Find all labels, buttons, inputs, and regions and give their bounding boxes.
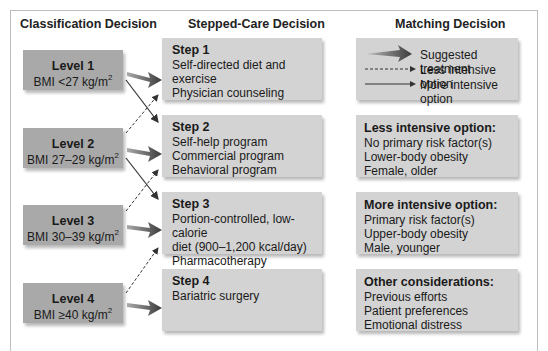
less-intensive-box: Less intensive option: No primary risk f… — [356, 115, 518, 177]
level-2-bmi: BMI 27–29 kg/m2 — [23, 153, 123, 167]
level-3-title: Level 3 — [23, 214, 123, 228]
step-1-title: Step 1 — [172, 43, 312, 57]
step-3-title: Step 3 — [172, 197, 312, 211]
level-1-bmi: BMI <27 kg/m2 — [23, 75, 123, 89]
less-intensive-line: Female, older — [364, 164, 510, 178]
step-1-line: Physician counseling — [172, 86, 312, 100]
step-4-title: Step 4 — [172, 274, 312, 288]
other-considerations-line: Emotional distress — [364, 318, 510, 332]
suggested-treatment-arrow-icon — [366, 45, 412, 62]
step-2-line: Behavioral program — [172, 163, 312, 177]
classification-column-title: Classification Decision — [20, 17, 157, 31]
level-3-box: Level 3 BMI 30–39 kg/m2 — [23, 205, 123, 245]
more-intensive-box: More intensive option: Primary risk fact… — [356, 192, 518, 254]
other-considerations-title: Other considerations: — [364, 275, 510, 289]
legend-more-intensive: More intensive option — [420, 78, 518, 106]
step-2-line: Commercial program — [172, 149, 312, 163]
step-2-box: Step 2 Self-help program Commercial prog… — [162, 115, 322, 177]
other-considerations-box: Other considerations: Previous efforts P… — [356, 269, 518, 331]
step-1-line: Self-directed diet and exercise — [172, 58, 312, 86]
level-1-title: Level 1 — [23, 59, 123, 73]
step-4-line: Bariatric surgery — [172, 289, 312, 303]
less-intensive-line: Lower-body obesity — [364, 150, 510, 164]
more-intensive-title: More intensive option: — [364, 198, 510, 212]
level-2-box: Level 2 BMI 27–29 kg/m2 — [23, 128, 123, 168]
step-4-box: Step 4 Bariatric surgery — [162, 269, 322, 331]
more-intensive-line: Primary risk factor(s) — [364, 213, 510, 227]
level-1-box: Level 1 BMI <27 kg/m2 — [23, 50, 123, 90]
level-4-title: Level 4 — [23, 292, 123, 306]
level-4-bmi: BMI ≥40 kg/m2 — [23, 308, 123, 322]
less-intensive-title: Less intensive option: — [364, 121, 510, 135]
step-1-box: Step 1 Self-directed diet and exercise P… — [162, 38, 322, 100]
level-4-box: Level 4 BMI ≥40 kg/m2 — [23, 283, 123, 323]
more-intensive-line: Male, younger — [364, 241, 510, 255]
level-2-title: Level 2 — [23, 137, 123, 151]
more-intensive-line: Upper-body obesity — [364, 227, 510, 241]
step-3-box: Step 3 Portion-controlled, low-calorie d… — [162, 192, 322, 254]
less-intensive-line: No primary risk factor(s) — [364, 136, 510, 150]
level-3-bmi: BMI 30–39 kg/m2 — [23, 230, 123, 244]
legend-box: Suggested treatment Less intensive optio… — [356, 38, 518, 100]
legend-arrows — [360, 38, 420, 100]
other-considerations-line: Patient preferences — [364, 304, 510, 318]
stepped-care-column-title: Stepped-Care Decision — [188, 17, 325, 31]
other-considerations-line: Previous efforts — [364, 290, 510, 304]
step-3-line: Pharmacotherapy — [172, 254, 312, 268]
matching-column-title: Matching Decision — [395, 17, 505, 31]
step-2-title: Step 2 — [172, 120, 312, 134]
step-3-line: Portion-controlled, low-calorie — [172, 212, 312, 240]
step-3-line: diet (900–1,200 kcal/day) — [172, 240, 312, 254]
step-2-line: Self-help program — [172, 135, 312, 149]
